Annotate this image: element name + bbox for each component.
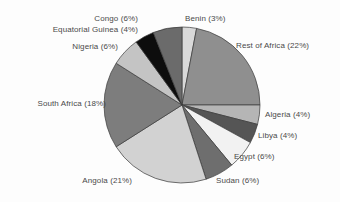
slice-label-nigeria: Nigeria (6%) — [18, 42, 118, 52]
slice-label-angola: Angola (21%) — [22, 176, 132, 186]
slice-label-south-africa: South Africa (18%) — [2, 99, 106, 109]
slice-label-algeria: Algeria (4%) — [265, 110, 340, 120]
slice-label-egypt: Egypt (6%) — [234, 152, 324, 162]
slice-label-benin: Benin (3%) — [185, 14, 275, 24]
pie-chart-screenshot: Congo (6%) Equatorial Guinea (4%) Nigeri… — [0, 0, 340, 202]
slice-label-congo: Congo (6%) — [52, 14, 138, 24]
slice-label-rest-of-africa: Rest of Africa (22%) — [236, 41, 340, 51]
slice-label-libya: Libya (4%) — [258, 131, 338, 141]
slice-label-sudan: Sudan (6%) — [216, 176, 306, 186]
slice-label-equatorial-guinea: Equatorial Guinea (4%) — [6, 25, 138, 35]
